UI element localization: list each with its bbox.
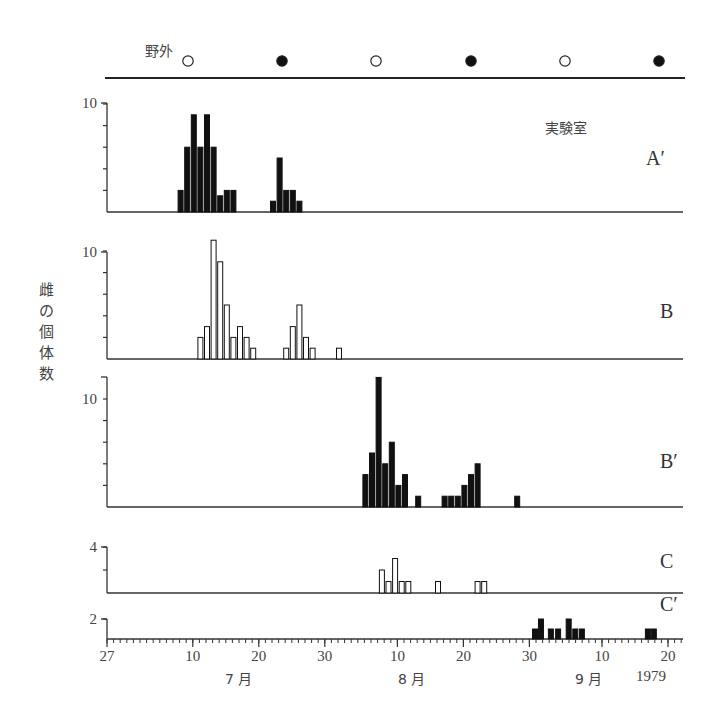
bar (370, 453, 375, 507)
x-tick-label: 30 (317, 648, 332, 665)
bar (205, 327, 210, 359)
month-label-jul: 7 月 (225, 668, 252, 688)
bar (290, 327, 295, 359)
panel-label-c-prime: C′ (660, 593, 678, 616)
field-moon-phase-row (105, 56, 685, 78)
bar (191, 115, 196, 212)
x-tick-label: 20 (251, 648, 266, 665)
bar (290, 190, 295, 212)
y-tick-label: 10 (82, 391, 97, 407)
x-tick-label: 27 (100, 648, 115, 665)
bar (238, 327, 243, 359)
y-axis-label-char: 体 (38, 343, 54, 364)
bar (556, 629, 561, 639)
bar (416, 496, 421, 507)
bar (376, 377, 381, 507)
bar (304, 337, 309, 359)
bar (224, 305, 229, 359)
bar (277, 158, 282, 212)
bar (475, 582, 480, 594)
bar (442, 496, 447, 507)
bar (185, 147, 190, 212)
bar (231, 337, 236, 359)
bar (449, 496, 454, 507)
panel-label-b-prime: B′ (660, 450, 678, 473)
bar (363, 475, 368, 507)
bar (310, 348, 315, 359)
bar (383, 464, 388, 507)
y-tick-label: 4 (90, 539, 98, 555)
bar (389, 442, 394, 507)
bar (482, 582, 487, 594)
bar (651, 629, 656, 639)
bar (297, 201, 302, 212)
bar (533, 629, 538, 639)
bar (579, 629, 584, 639)
bar (462, 485, 467, 507)
bar (566, 619, 571, 639)
panel-1: 10 (82, 95, 683, 212)
bar (436, 582, 441, 594)
month-label-aug: 8 月 (398, 668, 425, 688)
panel-4: 4 (90, 539, 684, 593)
panel-label-c: C (660, 550, 673, 573)
y-tick-label: 2 (90, 611, 98, 627)
full-moon-icon (183, 56, 193, 66)
bar (469, 475, 474, 507)
bar (211, 147, 216, 212)
bar (399, 582, 404, 594)
bar (198, 337, 203, 359)
x-tick-label: 30 (522, 648, 537, 665)
y-axis-label-char: 個 (38, 322, 54, 343)
x-tick-label: 20 (661, 648, 676, 665)
y-axis-label-char: 数 (38, 364, 54, 385)
x-tick-label: 20 (456, 648, 471, 665)
field-label: 野外 (145, 40, 173, 60)
bar (218, 262, 223, 359)
bar (393, 559, 398, 594)
bar (538, 619, 543, 639)
bar (211, 240, 216, 359)
bar (386, 582, 391, 594)
year-label: 1979 (636, 668, 666, 685)
y-axis-label-char: の (38, 301, 54, 322)
y-axis-label: 雌 の 個 体 数 (38, 280, 54, 385)
bar (244, 337, 249, 359)
x-tick-label: 10 (185, 648, 200, 665)
lab-label: 実験室 (545, 117, 587, 137)
panel-5: 2 (90, 611, 684, 639)
moon-phase-and-female-count-chart: 10101042 (0, 0, 722, 728)
bar (284, 348, 289, 359)
chart-panels: 10101042 (82, 95, 683, 639)
bar (396, 485, 401, 507)
x-tick-label: 10 (390, 648, 405, 665)
full-moon-icon (371, 56, 381, 66)
bar (224, 190, 229, 212)
bar (475, 464, 480, 507)
bar (198, 147, 203, 212)
y-tick-label: 10 (82, 95, 97, 111)
new-moon-icon (277, 56, 287, 66)
bar (573, 629, 578, 639)
panel-3: 10 (82, 377, 683, 507)
panel-2: 10 (82, 240, 683, 359)
bar (218, 196, 223, 212)
y-axis-label-char: 雌 (38, 280, 54, 301)
bar (379, 570, 384, 593)
bar (515, 496, 520, 507)
panel-label-b: B (660, 300, 673, 323)
new-moon-icon (654, 56, 664, 66)
bar (406, 582, 411, 594)
bar (645, 629, 650, 639)
bar (251, 348, 256, 359)
y-tick-label: 10 (82, 244, 97, 260)
bar (455, 496, 460, 507)
bar (271, 201, 276, 212)
bar (205, 115, 210, 212)
full-moon-icon (560, 56, 570, 66)
panel-label-a-prime: A′ (646, 147, 665, 170)
bar (284, 190, 289, 212)
bar (178, 190, 183, 212)
bar (297, 305, 302, 359)
month-label-sep: 9 月 (575, 668, 602, 688)
